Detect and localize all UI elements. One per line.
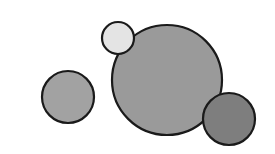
diagram-canvas: [0, 0, 275, 154]
small-light-circle: [102, 22, 134, 54]
bottom-right-circle: [203, 93, 255, 145]
left-circle: [42, 71, 94, 123]
circles-diagram: [0, 0, 275, 154]
